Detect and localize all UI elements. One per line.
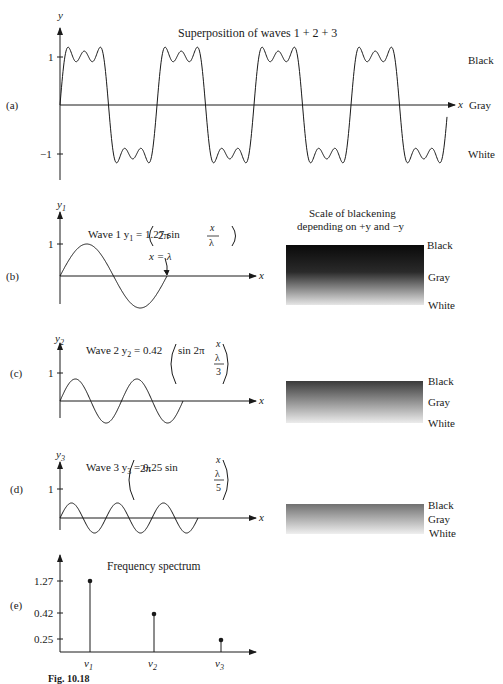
- tick-neg1-a: −1: [40, 149, 52, 160]
- spectrum-dot-1: [88, 579, 93, 584]
- wave-1-arg: 2π: [158, 230, 169, 241]
- x-axis-label-a: x: [458, 99, 463, 110]
- scale-title-line2: depending on +y and −y: [297, 221, 404, 232]
- x-equals-lambda: x = λ: [149, 251, 172, 262]
- tick-1-a: 1: [48, 52, 54, 63]
- label-black-a: Black: [468, 55, 494, 66]
- wave-2-equation: Wave 2 y2 = 0.42: [86, 345, 162, 359]
- panel-label-c: (c): [10, 368, 22, 379]
- nu1-label: ν1: [84, 658, 93, 672]
- scale-title-line1: Scale of blackening: [309, 208, 396, 219]
- y1-axis-label: y1: [57, 199, 66, 213]
- label-white-a: White: [468, 149, 495, 160]
- label-gray-a: Gray: [469, 100, 491, 111]
- y2-axis-label: y2: [55, 333, 64, 347]
- nu3-label: ν3: [215, 658, 224, 672]
- blackening-scale-3: [286, 504, 424, 534]
- spectrum-dot-3: [219, 638, 224, 643]
- panel-label-a: (a): [6, 100, 18, 111]
- wave-3-equation: Wave 3 y3 = 0.25 sin: [86, 462, 178, 476]
- panel-label-e: (e): [10, 600, 22, 611]
- panel-a-title: Superposition of waves 1 + 2 + 3: [178, 27, 337, 39]
- figure-caption: Fig. 10.18: [48, 674, 89, 684]
- spectrum-dot-2: [152, 612, 157, 617]
- y-axis-label-a: y: [58, 10, 63, 21]
- panel-label-d: (d): [10, 484, 23, 495]
- y3-axis-label: y3: [56, 449, 65, 463]
- nu2-label: ν2: [148, 658, 157, 672]
- blackening-scale-1: [286, 245, 424, 305]
- panel-label-b: (b): [6, 271, 19, 282]
- blackening-scale-2: [286, 381, 423, 423]
- spectrum-title: Frequency spectrum: [107, 561, 201, 573]
